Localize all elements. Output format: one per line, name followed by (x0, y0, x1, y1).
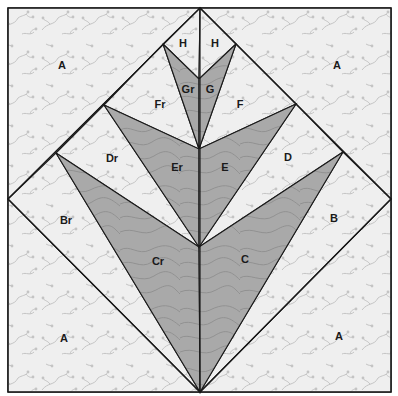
label-g: G (206, 83, 215, 95)
label-d: D (284, 151, 292, 163)
label-f: F (237, 98, 244, 110)
label-fr: Fr (155, 98, 167, 110)
label-er: Er (171, 161, 183, 173)
label-c: C (241, 253, 249, 265)
label-a-bottom-right: A (335, 330, 343, 342)
label-h-right: H (211, 37, 219, 49)
quilt-block-diagram: A A A A Br B Cr C Dr D Er E Fr F Gr G H … (0, 0, 398, 396)
label-e: E (221, 161, 228, 173)
label-a-top-left: A (58, 59, 66, 71)
label-a-bottom-left: A (60, 332, 68, 344)
label-dr: Dr (106, 152, 119, 164)
label-h-left: H (179, 37, 187, 49)
label-gr: Gr (182, 83, 196, 95)
label-a-top-right: A (333, 59, 341, 71)
label-br: Br (60, 214, 73, 226)
label-b: B (330, 212, 338, 224)
label-cr: Cr (152, 255, 165, 267)
